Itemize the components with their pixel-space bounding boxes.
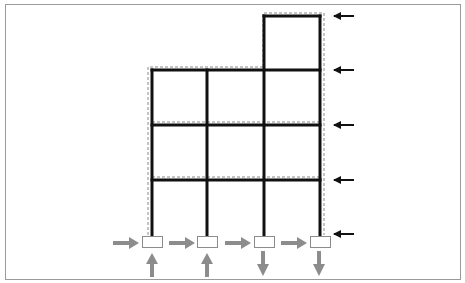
support-4 <box>311 237 331 248</box>
reaction-arrow-right-icon <box>281 237 307 249</box>
reaction-arrow-right-icon <box>225 237 251 249</box>
support-2 <box>198 237 218 248</box>
support-1 <box>143 237 163 248</box>
support-3 <box>255 237 275 248</box>
lateral-load-arrows <box>334 16 354 234</box>
reaction-arrow-down-icon <box>313 251 325 276</box>
vertical-reaction-arrows <box>146 251 325 277</box>
reaction-arrow-down-icon <box>257 251 269 276</box>
reaction-arrow-up-icon <box>201 253 213 277</box>
diagram-border <box>6 5 461 280</box>
building-frame <box>152 16 320 235</box>
reaction-arrow-up-icon <box>146 253 158 277</box>
reaction-arrow-right-icon <box>169 237 195 249</box>
frame-diagram <box>0 0 465 283</box>
reaction-arrow-right-icon <box>113 237 139 249</box>
diagram-canvas <box>0 0 465 283</box>
